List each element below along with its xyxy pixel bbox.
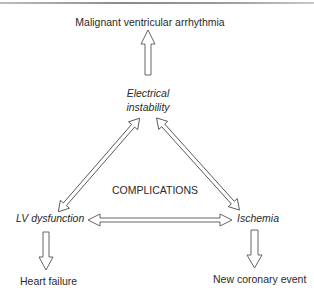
arrow-down-right-icon <box>247 230 262 268</box>
arrow-up-icon <box>141 30 155 75</box>
arrow-down-left-icon <box>39 232 53 270</box>
double-arrow-left-diagonal-icon <box>54 114 144 215</box>
double-arrow-right-diagonal-icon <box>152 114 244 214</box>
double-arrow-horizontal-icon <box>88 214 232 226</box>
diagram-arrows <box>0 0 314 300</box>
